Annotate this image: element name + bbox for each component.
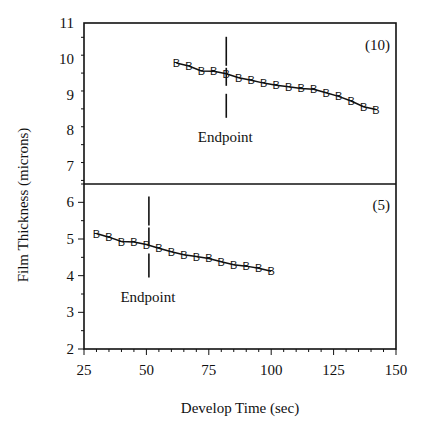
- data-point-marker: B: [322, 87, 329, 99]
- data-point-marker: B: [255, 262, 262, 274]
- data-point-marker: B: [185, 60, 192, 72]
- data-point-marker: B: [118, 236, 125, 248]
- x-tick-label: 25: [77, 362, 92, 378]
- y-tick-label: 11: [60, 15, 74, 31]
- x-tick-label: 150: [385, 362, 408, 378]
- data-point-marker: B: [205, 252, 212, 264]
- data-point-marker: B: [243, 260, 250, 272]
- data-point-marker: B: [105, 231, 112, 243]
- data-point-marker: B: [168, 246, 175, 258]
- data-point-marker: B: [268, 265, 275, 277]
- data-point-marker: B: [347, 95, 354, 107]
- data-point-marker: B: [198, 65, 205, 77]
- data-point-marker: B: [360, 101, 367, 113]
- endpoint-label: Endpoint: [120, 289, 176, 305]
- y-tick-label: 2: [67, 341, 75, 357]
- x-tick-label: 100: [260, 362, 283, 378]
- data-point-marker: B: [285, 81, 292, 93]
- x-tick-label: 50: [139, 362, 154, 378]
- data-point-marker: B: [372, 104, 379, 116]
- data-point-marker: B: [173, 57, 180, 69]
- panel-label: (5): [373, 197, 391, 214]
- data-point-marker: B: [260, 77, 267, 89]
- data-point-marker: B: [130, 236, 137, 248]
- x-tick-label: 75: [201, 362, 216, 378]
- panel-label: (10): [365, 37, 390, 54]
- data-point-marker: B: [155, 242, 162, 254]
- y-tick-label: 5: [67, 231, 75, 247]
- y-tick-label: 4: [67, 268, 75, 284]
- x-axis-title: Develop Time (sec): [181, 400, 299, 417]
- data-point-marker: B: [193, 251, 200, 263]
- data-point-marker: B: [335, 90, 342, 102]
- panel-top: 7891011(10)BBBBBBBBBBBBBBBBBEndpoint: [59, 15, 390, 180]
- data-point-marker: B: [180, 249, 187, 261]
- y-tick-label: 8: [67, 122, 75, 138]
- data-point-marker: B: [218, 256, 225, 268]
- panel-bottom: 23456(5)BBBBBBBBBBBBBBBEndpoint: [67, 184, 391, 357]
- y-tick-label: 7: [67, 158, 75, 174]
- y-tick-label: 10: [59, 51, 74, 67]
- data-point-marker: B: [235, 72, 242, 84]
- y-axis-title: Film Thickness (microns): [15, 128, 32, 283]
- x-axis: 255075100125150: [77, 349, 408, 378]
- data-point-marker: B: [310, 83, 317, 95]
- data-point-marker: B: [93, 228, 100, 240]
- y-tick-label: 6: [67, 194, 75, 210]
- data-point-marker: B: [273, 79, 280, 91]
- data-point-marker: B: [297, 82, 304, 94]
- endpoint-label: Endpoint: [198, 129, 254, 145]
- film-thickness-chart: 7891011(10)BBBBBBBBBBBBBBBBBEndpoint 234…: [0, 0, 423, 430]
- y-tick-label: 3: [67, 304, 75, 320]
- data-point-marker: B: [248, 74, 255, 86]
- data-point-marker: B: [230, 259, 237, 271]
- x-tick-label: 125: [322, 362, 345, 378]
- data-point-marker: B: [210, 65, 217, 77]
- y-tick-label: 9: [67, 87, 75, 103]
